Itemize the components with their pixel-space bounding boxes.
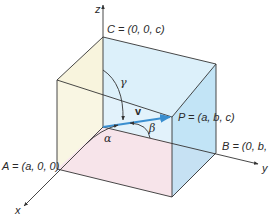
point-C-label: C = (0, 0, c) (107, 23, 165, 35)
point-P-label: P = (a, b, c) (178, 111, 235, 123)
alpha-label: α (104, 132, 112, 145)
vector-v-label: v (135, 105, 142, 117)
point-B-label: B = (0, b, 0) (222, 140, 269, 152)
point-A-label: A = (a, 0, 0) (1, 160, 60, 172)
gamma-label: γ (120, 76, 127, 89)
y-axis-label: y (261, 162, 269, 174)
z-axis-label: z (94, 3, 101, 15)
beta-label: β (148, 122, 155, 135)
x-axis-label: x (14, 204, 21, 216)
vector-direction-angles-diagram: z y x C = (0, 0, c) P = (a, b, c) B = (0… (0, 0, 269, 218)
